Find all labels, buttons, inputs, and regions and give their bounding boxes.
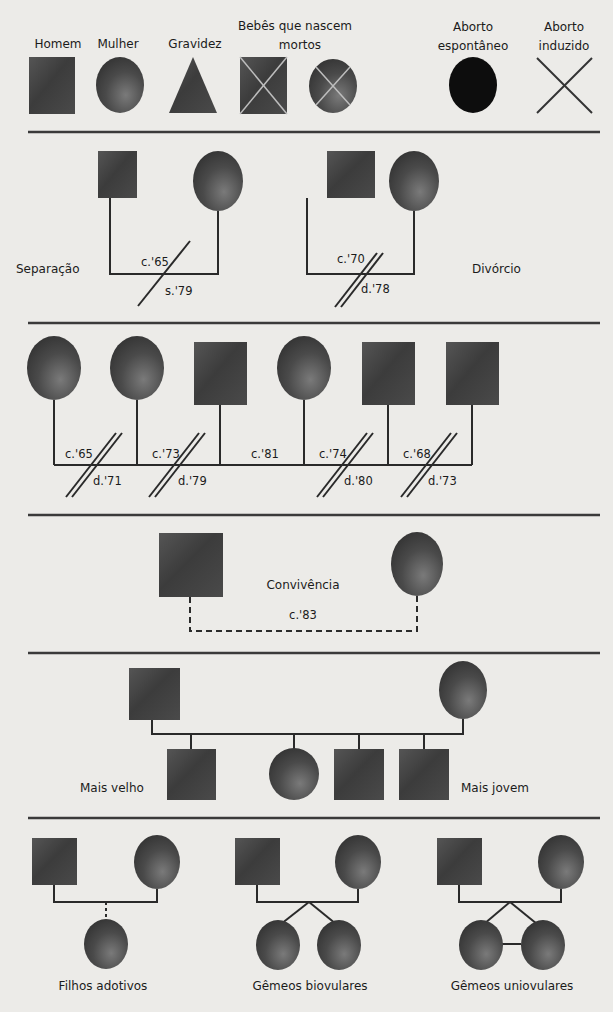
male-square-icon (98, 151, 137, 198)
female-circle-icon (134, 835, 180, 889)
legend-label-homem: Homem (34, 37, 81, 51)
female-circle-icon (439, 661, 487, 719)
legend-mulher: Mulher (96, 37, 144, 113)
pregnancy-triangle-icon (169, 57, 217, 113)
youngest-label: Mais jovem (461, 781, 529, 795)
male-square-icon (327, 151, 375, 198)
adopted-children-example: Filhos adotivos (32, 835, 180, 993)
male-square-icon (159, 533, 223, 597)
marriage-date-3: c.'81 (251, 447, 279, 461)
cohabitation-example: Convivência c.'83 (159, 532, 443, 631)
legend-gravidez: Gravidez (168, 37, 221, 113)
legend-label-natimorto-line1: Bebês que nascem (238, 19, 352, 33)
twin-branch-icon (281, 902, 336, 924)
divorce-date-1: d.'71 (93, 474, 122, 488)
divorce-label: Divórcio (472, 262, 521, 276)
legend-label-gravidez: Gravidez (168, 37, 221, 51)
legend-label-aborto-espontaneo-line1: Aborto (453, 20, 493, 34)
legend-aborto-induzido: Aborto induzido (537, 20, 592, 113)
male-square-icon (29, 57, 75, 114)
marriage-date-5: c.'68 (403, 447, 431, 461)
male-square-icon (32, 838, 77, 885)
induced-abortion-x-icon (537, 58, 592, 113)
male-square-icon (235, 838, 280, 885)
female-circle-icon (277, 336, 331, 400)
miscarriage-black-circle-icon (449, 57, 497, 113)
child-male-square-icon (334, 749, 384, 800)
child-female-circle-icon (269, 748, 319, 800)
male-square-icon (362, 342, 415, 405)
legend-label-aborto-induzido-line2: induzido (539, 39, 590, 53)
marriage-date-2: c.'73 (152, 447, 180, 461)
genogram-legend-diagram: Homem Mulher Gravidez Bebês que nascem m… (0, 0, 613, 1012)
legend-label-mulher: Mulher (97, 37, 138, 51)
female-circle-icon (193, 151, 243, 211)
legend-aborto-espontaneo: Aborto espontâneo (438, 20, 509, 113)
female-circle-icon (389, 151, 439, 211)
female-circle-icon (538, 835, 584, 889)
separation-married-date: c.'65 (141, 255, 169, 269)
female-circle-icon (391, 532, 443, 596)
divorce-married-date: c.'70 (337, 252, 365, 266)
divorce-date-4: d.'80 (344, 474, 373, 488)
female-circle-icon (96, 57, 144, 113)
male-square-icon (129, 668, 180, 720)
legend-homem: Homem (29, 37, 82, 114)
divorce-date-5: d.'73 (428, 474, 457, 488)
multiple-marriages-example: c.'65 d.'71 c.'73 d.'79 c.'81 c.'74 d.'8… (27, 336, 499, 497)
legend-natimorto: Bebês que nascem mortos (238, 19, 357, 114)
divorce-date: d.'78 (361, 282, 390, 296)
twin-circle-icon (256, 920, 300, 970)
child-male-square-icon (399, 749, 449, 800)
child-male-square-icon (167, 749, 216, 800)
marriage-date-1: c.'65 (65, 447, 93, 461)
twin-circle-icon (459, 920, 503, 970)
birth-order-example: Mais velho Mais jovem (80, 661, 529, 800)
twin-circle-icon (317, 920, 361, 970)
legend-label-aborto-induzido-line1: Aborto (544, 20, 584, 34)
separation-date: s.'79 (165, 284, 192, 298)
adopted-label: Filhos adotivos (59, 979, 148, 993)
separation-example: Separação c.'65 s.'79 (16, 151, 243, 306)
female-circle-icon (27, 336, 81, 400)
legend-row: Homem Mulher Gravidez Bebês que nascem m… (29, 19, 592, 114)
male-square-icon (437, 838, 482, 885)
fraternal-twins-example: Gêmeos biovulares (235, 835, 381, 993)
separation-label: Separação (16, 262, 80, 276)
male-square-icon (446, 342, 499, 405)
legend-label-natimorto-line2: mortos (279, 38, 321, 52)
male-square-icon (194, 342, 247, 405)
twin-circle-icon (521, 920, 565, 970)
marriage-date-4: c.'74 (319, 447, 347, 461)
cohabitation-label: Convivência (266, 578, 339, 592)
cohabitation-date: c.'83 (289, 608, 317, 622)
fraternal-twins-label: Gêmeos biovulares (252, 979, 367, 993)
adopted-child-circle-icon (84, 919, 128, 969)
identical-twins-label: Gêmeos uniovulares (451, 979, 574, 993)
divorce-example: Divórcio c.'70 d.'78 (307, 151, 521, 307)
oldest-label: Mais velho (80, 781, 144, 795)
legend-label-aborto-espontaneo-line2: espontâneo (438, 39, 509, 53)
divorce-date-2: d.'79 (178, 474, 207, 488)
female-circle-icon (335, 835, 381, 889)
female-circle-icon (110, 336, 164, 400)
identical-twins-example: Gêmeos uniovulares (437, 835, 584, 993)
